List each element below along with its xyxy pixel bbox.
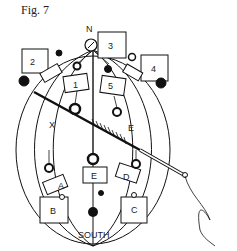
x-label: X (49, 120, 55, 130)
box-5-label: 5 (108, 81, 113, 91)
south-label: SOUTH (78, 230, 110, 240)
box-d-label: D (123, 172, 130, 182)
box-c-label: C (131, 205, 138, 215)
box-4-label: 4 (151, 64, 156, 74)
globe-diagram: N SOUTH X E 2 3 4 1 5 A B C D E (0, 0, 237, 251)
south-pin-icon (88, 207, 98, 217)
box-a-label: A (58, 181, 64, 191)
box-e-label: E (91, 171, 97, 181)
box-1-label: 1 (73, 80, 78, 90)
box-3-label: 3 (108, 41, 113, 51)
e-label: E (128, 123, 134, 133)
box-2-label: 2 (30, 57, 35, 67)
box-b-label: B (50, 206, 56, 216)
box-a (43, 174, 68, 194)
north-label: N (86, 24, 93, 34)
